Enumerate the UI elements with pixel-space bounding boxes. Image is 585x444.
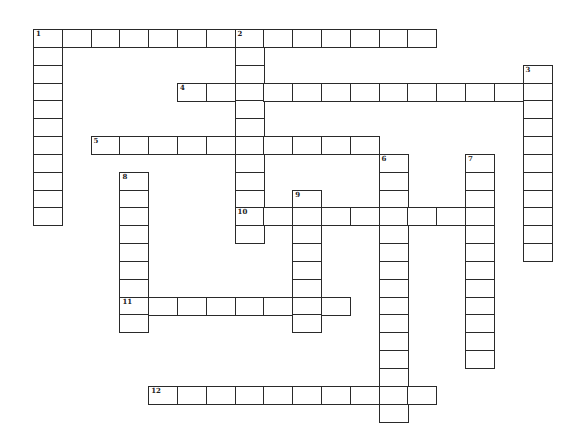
crossword-cell[interactable] bbox=[119, 225, 149, 244]
crossword-cell[interactable] bbox=[321, 386, 351, 405]
crossword-cell[interactable] bbox=[523, 207, 553, 226]
crossword-cell[interactable] bbox=[350, 207, 380, 226]
crossword-cell[interactable] bbox=[379, 207, 409, 226]
crossword-cell[interactable] bbox=[148, 297, 178, 316]
crossword-cell[interactable] bbox=[465, 207, 495, 226]
crossword-cell[interactable] bbox=[263, 29, 293, 48]
crossword-cell[interactable] bbox=[119, 279, 149, 298]
crossword-cell[interactable] bbox=[119, 190, 149, 209]
crossword-cell[interactable] bbox=[119, 314, 149, 333]
crossword-cell[interactable] bbox=[263, 136, 293, 155]
crossword-cell[interactable] bbox=[523, 100, 553, 119]
crossword-cell[interactable] bbox=[292, 297, 322, 316]
crossword-cell[interactable] bbox=[379, 261, 409, 280]
crossword-cell[interactable] bbox=[235, 136, 265, 155]
crossword-cell[interactable] bbox=[235, 65, 265, 84]
crossword-cell[interactable] bbox=[379, 297, 409, 316]
crossword-cell[interactable] bbox=[292, 225, 322, 244]
crossword-cell[interactable] bbox=[33, 207, 63, 226]
crossword-cell[interactable] bbox=[235, 154, 265, 173]
crossword-cell[interactable] bbox=[292, 29, 322, 48]
crossword-cell[interactable] bbox=[379, 350, 409, 369]
crossword-cell[interactable] bbox=[235, 297, 265, 316]
crossword-cell[interactable] bbox=[465, 83, 495, 102]
crossword-cell[interactable] bbox=[523, 154, 553, 173]
crossword-cell[interactable] bbox=[235, 386, 265, 405]
crossword-cell[interactable]: 2 bbox=[235, 29, 265, 48]
crossword-cell[interactable] bbox=[379, 225, 409, 244]
crossword-cell[interactable] bbox=[235, 47, 265, 66]
crossword-cell[interactable] bbox=[379, 243, 409, 262]
crossword-cell[interactable] bbox=[379, 404, 409, 423]
crossword-cell[interactable] bbox=[407, 386, 437, 405]
crossword-cell[interactable] bbox=[321, 136, 351, 155]
crossword-cell[interactable] bbox=[263, 83, 293, 102]
crossword-cell[interactable]: 10 bbox=[235, 207, 265, 226]
crossword-cell[interactable] bbox=[350, 136, 380, 155]
crossword-cell[interactable] bbox=[292, 261, 322, 280]
crossword-cell[interactable] bbox=[292, 314, 322, 333]
crossword-cell[interactable] bbox=[33, 172, 63, 191]
crossword-cell[interactable] bbox=[292, 386, 322, 405]
crossword-cell[interactable] bbox=[33, 47, 63, 66]
crossword-cell[interactable] bbox=[206, 297, 236, 316]
crossword-cell[interactable] bbox=[33, 136, 63, 155]
crossword-cell[interactable] bbox=[177, 29, 207, 48]
crossword-cell[interactable] bbox=[33, 118, 63, 137]
crossword-cell[interactable] bbox=[379, 29, 409, 48]
crossword-cell[interactable] bbox=[379, 314, 409, 333]
crossword-cell[interactable] bbox=[235, 172, 265, 191]
crossword-cell[interactable] bbox=[465, 279, 495, 298]
crossword-cell[interactable] bbox=[523, 225, 553, 244]
crossword-cell[interactable] bbox=[321, 207, 351, 226]
crossword-cell[interactable] bbox=[292, 279, 322, 298]
crossword-cell[interactable] bbox=[379, 190, 409, 209]
crossword-cell[interactable] bbox=[436, 83, 466, 102]
crossword-cell[interactable] bbox=[33, 100, 63, 119]
crossword-cell[interactable] bbox=[350, 386, 380, 405]
crossword-cell[interactable] bbox=[523, 83, 553, 102]
crossword-cell[interactable] bbox=[407, 83, 437, 102]
crossword-cell[interactable] bbox=[119, 261, 149, 280]
crossword-cell[interactable] bbox=[379, 386, 409, 405]
crossword-cell[interactable] bbox=[62, 29, 92, 48]
crossword-cell[interactable] bbox=[206, 136, 236, 155]
crossword-cell[interactable] bbox=[350, 29, 380, 48]
crossword-cell[interactable] bbox=[206, 83, 236, 102]
crossword-cell[interactable] bbox=[119, 207, 149, 226]
crossword-cell[interactable] bbox=[235, 225, 265, 244]
crossword-cell[interactable]: 6 bbox=[379, 154, 409, 173]
crossword-cell[interactable] bbox=[263, 297, 293, 316]
crossword-cell[interactable] bbox=[350, 83, 380, 102]
crossword-cell[interactable] bbox=[465, 225, 495, 244]
crossword-cell[interactable] bbox=[33, 83, 63, 102]
crossword-cell[interactable] bbox=[119, 136, 149, 155]
crossword-cell[interactable] bbox=[148, 136, 178, 155]
crossword-cell[interactable]: 1 bbox=[33, 29, 63, 48]
crossword-cell[interactable]: 12 bbox=[148, 386, 178, 405]
crossword-cell[interactable] bbox=[465, 332, 495, 351]
crossword-cell[interactable] bbox=[206, 386, 236, 405]
crossword-cell[interactable] bbox=[177, 136, 207, 155]
crossword-cell[interactable] bbox=[33, 65, 63, 84]
crossword-cell[interactable] bbox=[235, 83, 265, 102]
crossword-cell[interactable] bbox=[148, 29, 178, 48]
crossword-cell[interactable] bbox=[321, 297, 351, 316]
crossword-cell[interactable]: 7 bbox=[465, 154, 495, 173]
crossword-cell[interactable] bbox=[263, 386, 293, 405]
crossword-cell[interactable]: 4 bbox=[177, 83, 207, 102]
crossword-cell[interactable] bbox=[465, 190, 495, 209]
crossword-cell[interactable] bbox=[33, 190, 63, 209]
crossword-cell[interactable] bbox=[379, 83, 409, 102]
crossword-cell[interactable] bbox=[91, 29, 121, 48]
crossword-cell[interactable] bbox=[379, 279, 409, 298]
crossword-cell[interactable] bbox=[33, 154, 63, 173]
crossword-cell[interactable] bbox=[235, 100, 265, 119]
crossword-cell[interactable] bbox=[263, 207, 293, 226]
crossword-cell[interactable] bbox=[292, 83, 322, 102]
crossword-cell[interactable] bbox=[292, 207, 322, 226]
crossword-cell[interactable] bbox=[379, 172, 409, 191]
crossword-cell[interactable] bbox=[465, 243, 495, 262]
crossword-cell[interactable] bbox=[436, 207, 466, 226]
crossword-cell[interactable]: 8 bbox=[119, 172, 149, 191]
